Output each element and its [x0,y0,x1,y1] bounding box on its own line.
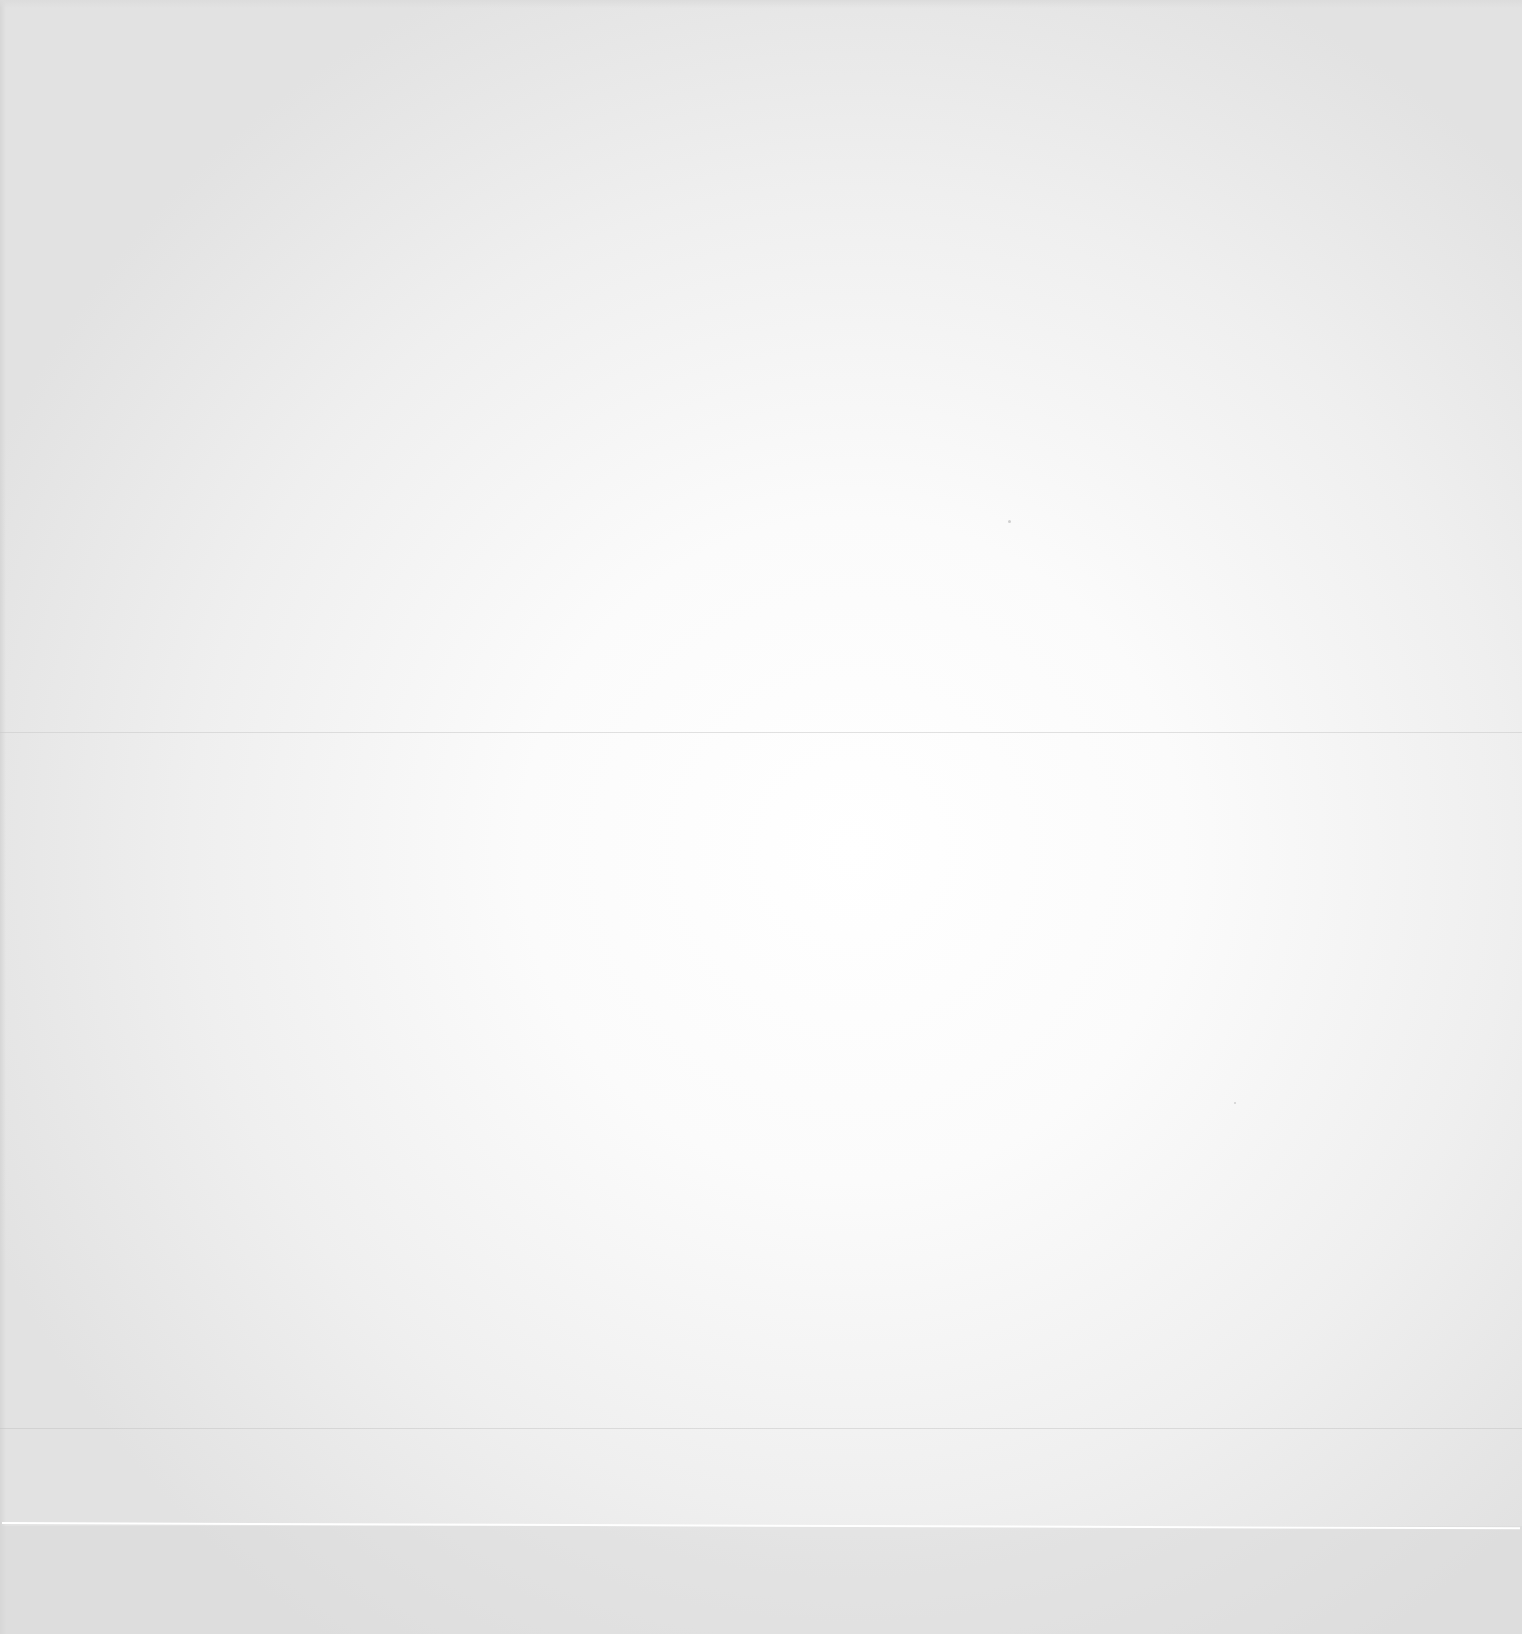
page-edge-shadow-left [0,0,6,1634]
paper-speck [1234,1102,1236,1104]
page-edge-shadow-top [0,0,1522,8]
paper-speck [1008,520,1011,523]
lower-scan-band [0,1526,1522,1634]
fold-line [0,732,1522,733]
fold-line [0,1428,1522,1429]
blank-page [0,0,1522,1634]
